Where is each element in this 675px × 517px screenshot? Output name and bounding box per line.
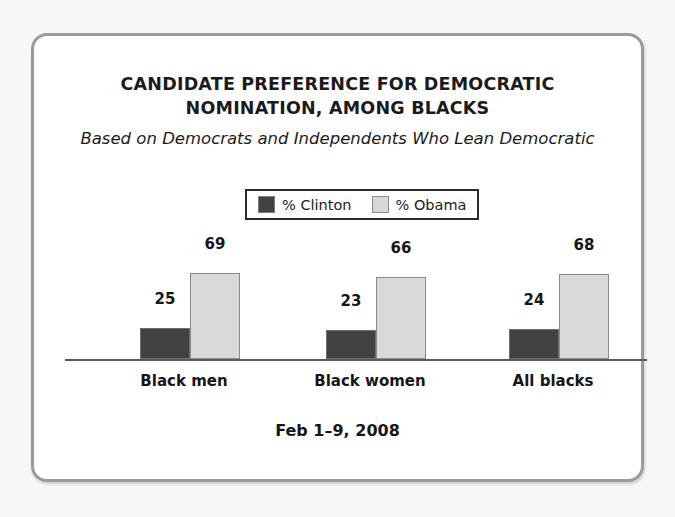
footer-date: Feb 1–9, 2008 xyxy=(34,421,641,440)
bar-wrap-clinton-1: 23 xyxy=(326,330,376,359)
legend-label-obama: % Obama xyxy=(396,197,467,213)
bar-value-clinton-0: 25 xyxy=(140,290,190,308)
bar-value-clinton-1: 23 xyxy=(326,292,376,310)
chart-subtitle: Based on Democrats and Independents Who … xyxy=(34,128,641,150)
obama-swatch-icon xyxy=(372,196,389,213)
bar-obama-2 xyxy=(559,274,609,359)
legend-label-clinton: % Clinton xyxy=(282,197,352,213)
bar-value-clinton-2: 24 xyxy=(509,291,559,309)
bar-wrap-clinton-2: 24 xyxy=(509,329,559,359)
bar-value-obama-0: 69 xyxy=(190,235,240,253)
bar-value-obama-1: 66 xyxy=(376,239,426,257)
bar-wrap-clinton-0: 25 xyxy=(140,328,190,359)
bar-obama-1 xyxy=(376,277,426,359)
bar-clinton-2 xyxy=(509,329,559,359)
x-axis-baseline xyxy=(65,359,647,362)
chart-title: CANDIDATE PREFERENCE FOR DEMOCRATIC NOMI… xyxy=(34,72,641,120)
legend-entry-clinton: % Clinton xyxy=(258,196,352,213)
title-line-2: NOMINATION, AMONG BLACKS xyxy=(34,96,641,120)
bar-clinton-0 xyxy=(140,328,190,359)
legend-entry-obama: % Obama xyxy=(372,196,467,213)
category-label-black-men: Black men xyxy=(90,372,278,390)
bar-group-bars: 24 68 xyxy=(509,274,609,359)
clinton-swatch-icon xyxy=(258,196,275,213)
bar-group-bars: 25 69 xyxy=(140,273,240,359)
chart-card: CANDIDATE PREFERENCE FOR DEMOCRATIC NOMI… xyxy=(31,33,644,482)
bar-clinton-1 xyxy=(326,330,376,359)
bar-wrap-obama-0: 69 xyxy=(190,273,240,359)
chart-plot-area: 25 69 23 66 xyxy=(65,216,647,361)
bar-wrap-obama-1: 66 xyxy=(376,277,426,359)
bar-value-obama-2: 68 xyxy=(559,236,609,254)
bar-group-bars: 23 66 xyxy=(326,277,426,359)
title-line-1: CANDIDATE PREFERENCE FOR DEMOCRATIC xyxy=(34,72,641,96)
bar-obama-0 xyxy=(190,273,240,359)
bar-wrap-obama-2: 68 xyxy=(559,274,609,359)
category-label-all-blacks: All blacks xyxy=(459,372,647,390)
category-label-black-women: Black women xyxy=(276,372,464,390)
